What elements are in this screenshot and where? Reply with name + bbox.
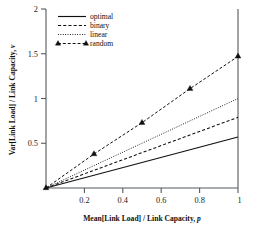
series-line-linear [46,99,238,189]
x-axis-label: Mean[Link Load] / Link Capacity, p [83,214,201,223]
y-axis-tick-labels: 0.5 1 1.5 2 [28,5,38,148]
legend-label-binary: binary [90,21,110,30]
legend-label-linear: linear [90,30,108,39]
chart-axes [46,9,238,188]
y-axis-label-main: Var[Link Load] / Link Capacity, [8,50,17,156]
series-line-binary [46,117,238,188]
x-ticklabel-1: 1 [237,196,241,205]
y-axis-label: Var[Link Load] / Link Capacity, v [8,44,17,155]
y-ticklabel-0.5: 0.5 [28,139,38,148]
x-ticklabel-0.6: 0.6 [156,196,166,205]
data-point-marker [235,53,241,58]
x-ticklabel-0.8: 0.8 [194,196,204,205]
x-axis-label-symbol: p [196,214,201,223]
data-point-marker [187,85,193,90]
chart-legend: optimal binary linear random [55,11,141,51]
y-ticklabel-1.5: 1.5 [28,50,38,59]
legend-marker-icon [55,41,60,46]
data-point-marker [139,119,145,124]
chart-figure: 0.5 1 1.5 2 0.2 0.4 0.6 0.8 1 [0,0,254,232]
x-axis-tick-labels: 0.2 0.4 0.6 0.8 1 [79,196,241,205]
x-ticklabel-0.2: 0.2 [79,196,89,205]
series-line-optimal [46,137,238,188]
x-axis-ticks [84,188,238,193]
x-ticklabel-0.4: 0.4 [118,196,129,205]
y-ticklabel-1: 1 [34,95,38,104]
y-axis-ticks [41,9,46,143]
y-ticklabel-2: 2 [34,5,38,14]
y-axis-label-symbol: v [8,44,17,48]
x-axis-label-main: Mean[Link Load] / Link Capacity, [83,214,195,223]
series-markers-random [43,53,241,190]
variance-vs-mean-link-load-chart: 0.5 1 1.5 2 0.2 0.4 0.6 0.8 1 [0,0,254,232]
legend-label-optimal: optimal [90,12,113,21]
legend-label-random: random [90,39,113,48]
legend-marker-icon [83,41,88,46]
